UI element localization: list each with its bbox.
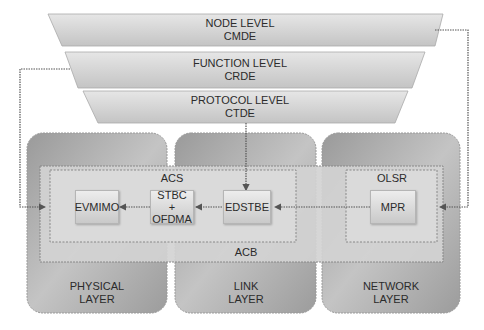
node-level-code: CMDE xyxy=(150,30,330,43)
function-level-label: FUNCTION LEVEL CRDE xyxy=(150,57,330,83)
evmimo-node: EVMIMO xyxy=(75,190,119,224)
acs-label: ACS xyxy=(150,172,194,185)
olsr-label: OLSR xyxy=(370,172,414,185)
evmimo-label: EVMIMO xyxy=(75,201,120,213)
mpr-label: MPR xyxy=(381,201,405,213)
node-level-label: NODE LEVEL CMDE xyxy=(150,17,330,43)
protocol-level-code: CTDE xyxy=(150,107,330,120)
edstbe-node: EDSTBE xyxy=(223,190,271,224)
node-level-name: NODE LEVEL xyxy=(150,17,330,30)
plus-label: + xyxy=(169,201,175,213)
link-layer-line2: LAYER xyxy=(196,293,296,306)
physical-layer-line2: LAYER xyxy=(47,293,147,306)
physical-layer-line1: PHYSICAL xyxy=(47,280,147,293)
link-layer-label: LINK LAYER xyxy=(196,280,296,306)
protocol-level-label: PROTOCOL LEVEL CTDE xyxy=(150,94,330,120)
network-layer-line1: NETWORK xyxy=(341,280,441,293)
stbc-ofdma-node: STBC + OFDMA xyxy=(150,190,194,224)
network-layer-line2: LAYER xyxy=(341,293,441,306)
edstbe-label: EDSTBE xyxy=(225,201,269,213)
mpr-node: MPR xyxy=(370,190,416,224)
link-layer-line1: LINK xyxy=(196,280,296,293)
network-layer-label: NETWORK LAYER xyxy=(341,280,441,306)
function-level-name: FUNCTION LEVEL xyxy=(150,57,330,70)
stbc-label: STBC xyxy=(157,189,186,201)
function-level-code: CRDE xyxy=(150,70,330,83)
physical-layer-label: PHYSICAL LAYER xyxy=(47,280,147,306)
acb-label: ACB xyxy=(224,246,268,259)
ofdma-label: OFDMA xyxy=(152,213,192,225)
protocol-level-name: PROTOCOL LEVEL xyxy=(150,94,330,107)
